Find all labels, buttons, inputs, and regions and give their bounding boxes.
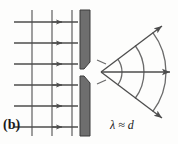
barrier-upper-segment: [80, 10, 90, 69]
diffracted-ray-lower: [101, 72, 162, 118]
diffraction-diagram-canvas: [0, 0, 178, 144]
incident-ray-arrowhead-group: [52, 22, 62, 127]
incident-wavefront-group: [32, 10, 72, 136]
condition-label: λ ≈ d: [110, 119, 134, 131]
incident-ray-group: [14, 22, 78, 127]
origin-tick: [97, 80, 106, 84]
barrier-lower-segment: [80, 76, 90, 136]
slit-barrier-group: [80, 10, 90, 136]
panel-label: (b): [3, 118, 20, 132]
diffracted-ray-group: [101, 26, 170, 118]
origin-tick: [97, 60, 106, 64]
diffraction-figure: (b) λ ≈ d: [0, 0, 178, 144]
diffracted-ray-upper: [101, 26, 162, 72]
